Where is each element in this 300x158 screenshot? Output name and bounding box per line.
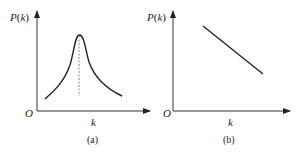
caption-a: (a) [87,134,98,146]
panel-b: P(k) O k (b) [146,11,290,146]
origin-label-b: O [163,107,171,119]
decreasing-line [203,26,263,74]
x-axis-label-a: k [91,116,97,128]
y-axis-label-b: P(k) [146,11,166,24]
y-axis-label-a: P(k) [9,11,29,24]
caption-b: (b) [223,134,235,146]
peaked-curve [45,35,122,99]
figure: P(k) O k (a) P(k) O k (b) [0,0,300,158]
x-axis-label-b: k [228,116,234,128]
origin-label-a: O [25,107,33,119]
panel-a: P(k) O k (a) [9,11,150,146]
